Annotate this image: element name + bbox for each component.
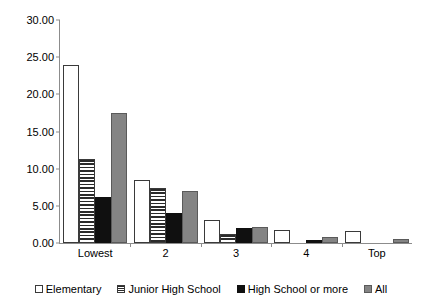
legend-label: Junior High School: [128, 283, 220, 295]
bar-all-2: [182, 191, 198, 243]
bar-group-2: [130, 20, 200, 243]
bar-group-lowest: [60, 20, 130, 243]
bar-elementary-3: [204, 220, 220, 243]
legend-label: All: [375, 283, 387, 295]
bar-elementary-4: [274, 230, 290, 243]
bar-highschool-2: [166, 213, 182, 243]
bar-group-3: [201, 20, 271, 243]
legend-label: High School or more: [248, 283, 348, 295]
bar-groups: [60, 20, 412, 243]
plot-area: 0.005.0010.0015.0020.0025.0030.00: [60, 20, 412, 243]
chart-legend: ElementaryJunior High SchoolHigh School …: [0, 283, 422, 295]
x-axis-tick-mark: [342, 243, 343, 247]
x-axis-label: 4: [271, 247, 341, 259]
bar-highschool-4: [306, 240, 322, 243]
bar-chart: 0.005.0010.0015.0020.0025.0030.00 Lowest…: [0, 0, 422, 303]
legend-label: Elementary: [46, 283, 102, 295]
bar-elementary-2: [134, 180, 150, 243]
x-axis-label: Lowest: [60, 247, 130, 259]
bar-all-3: [252, 227, 268, 243]
y-axis-tick-label: 20.00: [26, 88, 60, 100]
bar-elementary-top: [345, 231, 361, 243]
legend-swatch-highschool-icon: [237, 285, 245, 293]
legend-swatch-junior-icon: [117, 285, 125, 293]
bar-highschool-3: [236, 228, 252, 243]
bar-elementary-lowest: [63, 65, 79, 243]
x-axis-label: 3: [201, 247, 271, 259]
y-axis-tick-label: 25.00: [26, 51, 60, 63]
legend-item-junior: Junior High School: [117, 283, 220, 295]
bar-highschool-lowest: [95, 197, 111, 243]
bar-all-4: [322, 237, 338, 243]
y-axis-tick-label: 30.00: [26, 14, 60, 26]
x-axis-line: [59, 243, 412, 244]
legend-swatch-elementary-icon: [35, 285, 43, 293]
x-axis-labels: Lowest234Top: [60, 247, 412, 259]
y-axis-tick-label: 10.00: [26, 163, 60, 175]
legend-item-highschool: High School or more: [237, 283, 348, 295]
bar-group-4: [271, 20, 341, 243]
bar-junior-2: [150, 188, 166, 243]
legend-item-all: All: [364, 283, 387, 295]
y-axis-tick-label: 15.00: [26, 126, 60, 138]
x-axis-tick-mark: [201, 243, 202, 247]
legend-item-elementary: Elementary: [35, 283, 102, 295]
bar-all-top: [393, 239, 409, 243]
bar-junior-lowest: [79, 159, 95, 243]
bar-junior-3: [220, 234, 236, 243]
bar-group-top: [342, 20, 412, 243]
bar-all-lowest: [111, 113, 127, 243]
legend-swatch-all-icon: [364, 285, 372, 293]
x-axis-tick-mark: [271, 243, 272, 247]
x-axis-tick-mark: [130, 243, 131, 247]
x-axis-label: 2: [130, 247, 200, 259]
x-axis-label: Top: [342, 247, 412, 259]
